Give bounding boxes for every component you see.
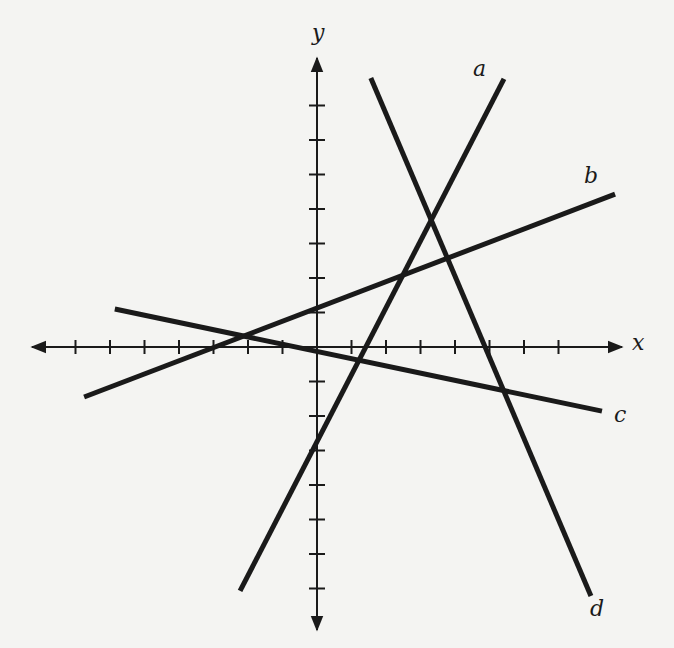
y-axis-label: y	[312, 20, 324, 45]
line-d-label: d	[590, 596, 604, 621]
x-axis-label: x	[632, 330, 644, 355]
coordinate-plane	[0, 0, 674, 648]
line-c	[115, 309, 602, 411]
line-d	[371, 78, 591, 596]
line-b	[84, 194, 615, 397]
line-a	[240, 79, 504, 591]
line-b-label: b	[584, 163, 598, 188]
line-a-label: a	[473, 56, 486, 81]
plot-lines	[84, 78, 615, 596]
axes	[32, 58, 622, 630]
line-c-label: c	[614, 402, 626, 427]
